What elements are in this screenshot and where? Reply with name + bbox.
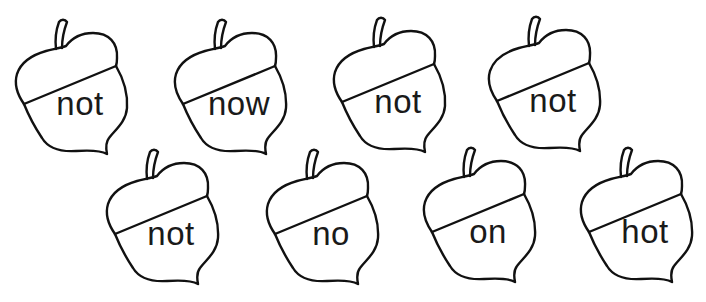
acorn-icon [91,130,231,290]
acorn-card: no [251,130,391,290]
acorn-word: no [281,214,381,254]
acorn-word: not [121,214,221,254]
acorn-word: on [438,212,538,252]
acorn-icon [565,128,705,288]
acorn-word: not [30,84,130,124]
acorn-word: not [503,81,603,121]
acorn-card: hot [565,128,705,288]
acorn-card: on [408,128,548,288]
acorn-word: not [348,82,448,122]
acorn-word-worksheet: not now not not [0,0,706,302]
acorn-icon [251,130,391,290]
acorn-word: now [189,84,289,124]
acorn-icon [408,128,548,288]
acorn-word: hot [595,212,695,252]
acorn-card: not [91,130,231,290]
